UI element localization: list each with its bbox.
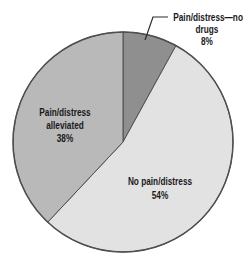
label-pain-no-drugs-line2: drugs xyxy=(173,23,241,35)
label-no-pain-distress-percent: 54% xyxy=(126,188,194,202)
label-no-pain-distress: No pain/distress 54% xyxy=(126,174,194,202)
label-pain-no-drugs-percent: 8% xyxy=(173,35,241,47)
label-pain-alleviated-line1: Pain/distress xyxy=(31,106,99,119)
label-pain-alleviated-percent: 38% xyxy=(31,132,99,145)
label-pain-alleviated-line2: alleviated xyxy=(31,119,99,132)
label-pain-alleviated: Pain/distress alleviated 38% xyxy=(31,106,99,145)
label-pain-no-drugs-line1: Pain/distress—no xyxy=(173,11,241,23)
label-pain-no-drugs: Pain/distress—no drugs 8% xyxy=(173,11,241,47)
label-no-pain-distress-line1: No pain/distress xyxy=(126,174,194,188)
pie-chart-figure: Pain/distress—no drugs 8% Pain/distress … xyxy=(0,0,250,267)
